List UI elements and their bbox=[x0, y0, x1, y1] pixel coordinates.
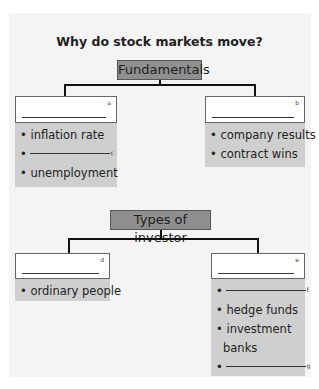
heading-types-of-investor: Types of investor bbox=[110, 210, 211, 230]
label-e: e bbox=[295, 256, 299, 263]
bullet-icon: • bbox=[20, 147, 30, 161]
blank-list-item[interactable]: • f bbox=[216, 282, 305, 301]
list-item-text: contract wins bbox=[220, 147, 297, 161]
list-investor-left: • ordinary people bbox=[15, 279, 110, 301]
list-item: • inflation rate bbox=[20, 126, 117, 145]
connector bbox=[257, 238, 259, 254]
label-g: g bbox=[306, 356, 310, 375]
blank-line bbox=[218, 273, 294, 274]
answer-box-e[interactable]: e bbox=[211, 253, 305, 279]
list-item: • investment bbox=[216, 320, 305, 339]
diagram-title: Why do stock markets move? bbox=[0, 34, 319, 49]
blank-line bbox=[226, 290, 306, 291]
list-fundamentals-left: • inflation rate• c• unemployment bbox=[15, 123, 117, 187]
bullet-icon: • bbox=[216, 303, 226, 317]
label-a: a bbox=[107, 99, 111, 106]
list-item: • unemployment bbox=[20, 164, 117, 183]
answer-box-d[interactable]: d bbox=[15, 253, 110, 279]
list-item-text: investment bbox=[226, 322, 291, 336]
list-item: • ordinary people bbox=[20, 282, 110, 301]
bullet-icon: • bbox=[210, 147, 220, 161]
list-item-text: inflation rate bbox=[30, 128, 104, 142]
list-fundamentals-right: • company results• contract wins bbox=[205, 123, 305, 167]
bullet-icon: • bbox=[216, 360, 226, 374]
blank-line bbox=[22, 273, 99, 274]
connector bbox=[68, 238, 70, 254]
connector bbox=[64, 84, 256, 86]
blank-line bbox=[212, 117, 294, 118]
label-d: d bbox=[100, 256, 104, 263]
list-item-text: company results bbox=[220, 128, 315, 142]
heading-fundamentals: Fundamentals bbox=[117, 60, 202, 80]
bullet-icon: • bbox=[210, 128, 220, 142]
list-investor-right: • f• hedge funds• investmentbanks• g bbox=[211, 279, 305, 376]
blank-line bbox=[226, 366, 306, 367]
blank-list-item[interactable]: • g bbox=[216, 358, 305, 377]
bullet-icon: • bbox=[20, 166, 30, 180]
list-item: • contract wins bbox=[210, 145, 305, 164]
label-b: b bbox=[295, 99, 299, 106]
list-item-text: ordinary people bbox=[30, 284, 121, 298]
label-f: f bbox=[306, 280, 308, 299]
list-item: banks bbox=[216, 339, 305, 358]
list-item: • hedge funds bbox=[216, 301, 305, 320]
blank-line bbox=[22, 117, 106, 118]
answer-box-a[interactable]: a bbox=[15, 96, 117, 123]
list-item-text: hedge funds bbox=[226, 303, 298, 317]
list-item: • company results bbox=[210, 126, 305, 145]
blank-list-item[interactable]: • c bbox=[20, 145, 117, 164]
bullet-icon: • bbox=[20, 284, 30, 298]
bullet-icon: • bbox=[216, 284, 226, 298]
bullet-icon: • bbox=[20, 128, 30, 142]
list-item-text: unemployment bbox=[30, 166, 117, 180]
blank-line bbox=[30, 153, 110, 154]
label-c: c bbox=[110, 143, 113, 162]
list-item-text: banks bbox=[223, 341, 257, 355]
connector bbox=[68, 238, 259, 240]
bullet-icon: • bbox=[216, 322, 226, 336]
answer-box-b[interactable]: b bbox=[205, 96, 305, 123]
